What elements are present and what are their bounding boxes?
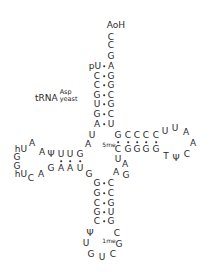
nucleotide: A [29, 139, 35, 148]
nucleotide: T [163, 152, 169, 161]
base-pair-dot [103, 220, 105, 222]
nucleotide: U [108, 120, 115, 129]
base-pair-dot [103, 123, 105, 125]
nucleotide: G [116, 240, 123, 249]
nucleotide: C [94, 81, 100, 90]
nucleotide: pU [89, 62, 101, 71]
trna-label-subscript: yeast [60, 96, 78, 103]
nucleotide: G [86, 170, 93, 179]
nucleotide-aoh: AoH [107, 21, 125, 30]
nucleotide: A [58, 164, 64, 173]
nucleotide: G [134, 145, 141, 154]
nucleotide: U [58, 150, 65, 159]
nucleotide: G [94, 110, 101, 119]
nucleotide: A [190, 139, 196, 148]
nucleotide: U [94, 100, 101, 109]
nucleotide: G [125, 145, 132, 154]
nucleotide: Ψ [47, 150, 54, 159]
trna-cloverleaf-diagram: tRNAAspyeast AoH C C G pU A C G C G G C … [0, 0, 210, 272]
nucleotide: U [67, 150, 74, 159]
nucleotide: G [108, 217, 115, 226]
nucleotide: A [38, 170, 44, 179]
base-pair-dot [103, 94, 105, 96]
nucleotide: C [184, 150, 190, 159]
modification-label: 1me [102, 238, 115, 244]
nucleotide: C [108, 41, 114, 50]
nucleotide: C [114, 229, 120, 238]
nucleotide: G [108, 52, 115, 61]
nucleotide: C [110, 250, 116, 259]
nucleotide: G [88, 250, 95, 259]
base-pair-dot [103, 103, 105, 105]
nucleotide: U [115, 155, 122, 164]
base-pair-dot [103, 75, 105, 77]
nucleotide: C [125, 131, 131, 140]
nucleotide: A [67, 164, 73, 173]
nucleotide: A [85, 140, 91, 149]
nucleotide: A [39, 148, 45, 157]
nucleotide: G [123, 171, 130, 180]
nucleotide: U [162, 127, 169, 136]
nucleotide: U [99, 253, 106, 262]
base-pair-dot [103, 182, 105, 184]
nucleotide: G [94, 179, 101, 188]
nucleotide: C [115, 145, 121, 154]
nucleotide: G [115, 131, 122, 140]
nucleotide: C [108, 110, 114, 119]
base-pair-dot [103, 211, 105, 213]
nucleotide: G [108, 81, 115, 90]
modification-label: 5me [102, 142, 115, 148]
nucleotide: A [94, 120, 100, 129]
nucleotide: hU [15, 170, 27, 179]
trna-label: tRNAAspyeast [35, 86, 77, 105]
base-pair-dot [103, 113, 105, 115]
nucleotide: C [108, 189, 114, 198]
nucleotide: C [143, 131, 149, 140]
nucleotide: U [83, 239, 90, 248]
base-pair-dot [103, 65, 105, 67]
nucleotide: G [94, 189, 101, 198]
trna-label-name: tRNA [35, 93, 58, 103]
nucleotide: C [134, 131, 140, 140]
base-pair-dot [103, 84, 105, 86]
nucleotide: A [122, 160, 128, 169]
nucleotide: C [28, 174, 34, 183]
nucleotide: U [77, 164, 84, 173]
nucleotide: A [108, 62, 114, 71]
nucleotide: G [143, 145, 150, 154]
nucleotide: C [94, 217, 100, 226]
nucleotide: C [153, 131, 159, 140]
nucleotide: Ψ [86, 229, 93, 238]
base-pair-dot [103, 192, 105, 194]
nucleotide: Ψ [172, 154, 179, 163]
nucleotide: A [183, 128, 189, 137]
nucleotide: G [153, 145, 160, 154]
nucleotide: G [108, 100, 115, 109]
trna-label-stack: Aspyeast [60, 89, 78, 103]
nucleotide: A [113, 168, 119, 177]
base-pair-dot [103, 202, 105, 204]
nucleotide: G [48, 164, 55, 173]
nucleotide: G [77, 150, 84, 159]
nucleotide: U [172, 124, 179, 133]
nucleotide: C [108, 179, 114, 188]
